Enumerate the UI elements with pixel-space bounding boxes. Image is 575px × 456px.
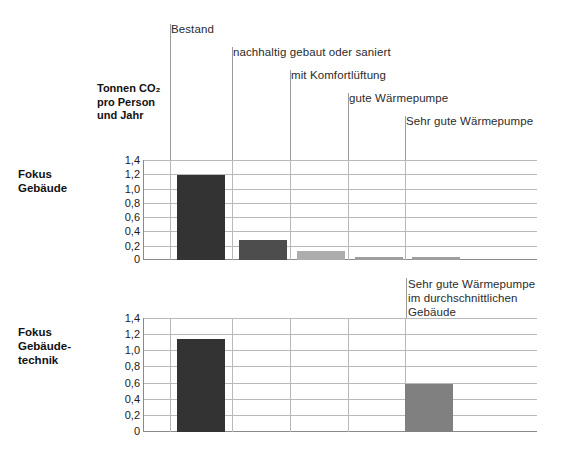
bar-top-sehr-gute-waermepumpe: [412, 257, 460, 261]
y-tick-bottom-1-0: 1,0: [125, 345, 140, 356]
vgridline-5: [405, 160, 406, 260]
y-tick-top-1-4: 1,4: [125, 155, 140, 166]
bar-top-komfortlueftung: [297, 251, 345, 260]
y-tick-bottom-0-2: 0,2: [125, 410, 140, 421]
bar-top-bestand: [177, 175, 225, 260]
leader-line-nachhaltig: [232, 47, 233, 160]
y-tick-top-1-0: 1,0: [125, 184, 140, 195]
vgridline-b-3: [290, 318, 291, 432]
y-axis-caption: Tonnen CO₂ pro Person und Jahr: [97, 82, 182, 123]
gridline-1-4: [144, 160, 537, 161]
y-tick-bottom-1-2: 1,2: [125, 329, 140, 340]
chart-fokus-gebaeude: [144, 160, 537, 260]
vgridline-3: [290, 160, 291, 260]
callout-label-gute-waermepumpe: gute Wärmepumpe: [349, 92, 448, 105]
callout-label-bestand: Bestand: [171, 23, 214, 36]
y-tick-top-0-8: 0,8: [125, 198, 140, 209]
y-ticks-top: 1,4 1,2 1,0 0,8 0,6 0,4 0,2 0: [100, 160, 140, 260]
leader-line-annotation-bottom: [406, 278, 407, 318]
leader-line-komfortlueftung: [290, 70, 291, 160]
y-tick-top-0-2: 0,2: [125, 241, 140, 252]
y-tick-bottom-0-4: 0,4: [125, 394, 140, 405]
bar-top-gute-waermepumpe: [355, 257, 403, 261]
y-tick-top-0: 0: [134, 254, 140, 265]
vgridline-b-2: [232, 318, 233, 432]
vgridline-b-1: [170, 318, 171, 432]
vgridline-1: [170, 160, 171, 260]
annotation-sehr-gute-waermepumpe-durchschnitt: Sehr gute Wärmepumpe im durchschnittlich…: [408, 277, 535, 319]
plot-area-top: [144, 160, 537, 260]
vgridline-2: [232, 160, 233, 260]
y-ticks-bottom: 1,4 1,2 1,0 0,8 0,6 0,4 0,2 0: [100, 318, 140, 432]
callout-label-sehr-gute-waermepumpe: Sehr gute Wärmepumpe: [406, 115, 533, 128]
plot-area-bottom: [144, 318, 537, 432]
y-tick-top-1-2: 1,2: [125, 169, 140, 180]
y-tick-top-0-6: 0,6: [125, 212, 140, 223]
row-label-fokus-gebaeudetechnik: Fokus Gebäude- technik: [18, 325, 71, 367]
row-label-fokus-gebaeude: Fokus Gebäude: [18, 167, 67, 195]
y-tick-bottom-1-4: 1,4: [125, 313, 140, 324]
callout-label-nachhaltig: nachhaltig gebaut oder saniert: [233, 46, 391, 59]
y-tick-bottom-0-6: 0,6: [125, 378, 140, 389]
bar-bottom-bestand: [177, 339, 225, 432]
bar-bottom-sehr-gute-waermepumpe: [405, 384, 453, 432]
y-axis-line-top: [143, 160, 144, 260]
leader-line-gute-waermepumpe: [348, 93, 349, 160]
vgridline-b-4: [348, 318, 349, 432]
callout-label-komfortlueftung: mit Komfortlüftung: [291, 69, 386, 82]
chart-fokus-gebaeudetechnik: [144, 318, 537, 432]
y-tick-top-0-4: 0,4: [125, 226, 140, 237]
vgridline-4: [348, 160, 349, 260]
leader-line-sehr-gute-waermepumpe: [405, 116, 406, 160]
bar-top-nachhaltig: [239, 240, 287, 260]
gridline-b-1-4: [144, 318, 537, 319]
gridline-b-1-2: [144, 334, 537, 335]
y-axis-line-bottom: [143, 318, 144, 432]
y-tick-bottom-0: 0: [134, 426, 140, 437]
y-tick-bottom-0-8: 0,8: [125, 361, 140, 372]
